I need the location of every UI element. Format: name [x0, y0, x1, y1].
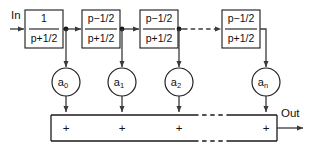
transfer-block-n[interactable]: p−1/2 p+1/2: [222, 10, 260, 48]
coefficient-node-a0[interactable]: a0: [52, 68, 80, 96]
adder-plus-0: +: [63, 122, 70, 134]
adder-plus-1: +: [119, 122, 126, 134]
coefficient-node-a1[interactable]: a1: [108, 68, 136, 96]
transfer-block-2-numerator: p−1/2: [88, 12, 115, 24]
input-label: In: [11, 9, 21, 21]
transfer-block-1-denominator: p+1/2: [31, 32, 58, 44]
filter-diagram-canvas: In 1 p+1/2 p−1/2 p+1/2 p−1/2 p+1/2: [0, 0, 312, 149]
transfer-block-1[interactable]: 1 p+1/2: [25, 10, 63, 48]
transfer-block-2-denominator: p+1/2: [88, 32, 115, 44]
transfer-block-3-denominator: p+1/2: [146, 32, 173, 44]
adder-plus-n: +: [263, 122, 270, 134]
output-label: Out: [281, 107, 300, 119]
signal-flow-diagram: In 1 p+1/2 p−1/2 p+1/2 p−1/2 p+1/2: [0, 0, 312, 149]
transfer-block-1-numerator: 1: [41, 12, 47, 24]
transfer-block-3-numerator: p−1/2: [146, 12, 173, 24]
transfer-block-n-denominator: p+1/2: [228, 32, 255, 44]
adder-plus-2: +: [176, 122, 183, 134]
transfer-block-3[interactable]: p−1/2 p+1/2: [140, 10, 178, 48]
transfer-block-2[interactable]: p−1/2 p+1/2: [82, 10, 120, 48]
summation-bar[interactable]: + + + +: [51, 115, 277, 141]
coefficient-node-an[interactable]: an: [252, 68, 280, 96]
tap-wire-n: [260, 29, 266, 67]
transfer-block-n-numerator: p−1/2: [228, 12, 255, 24]
coefficient-node-a2[interactable]: a2: [165, 68, 193, 96]
